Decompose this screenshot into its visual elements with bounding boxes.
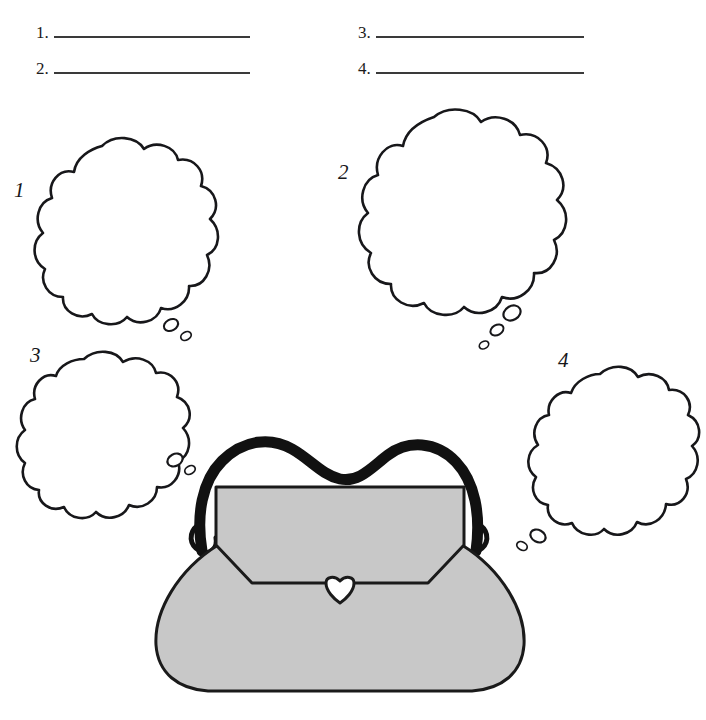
- bubble-1-tail-dot-1: [162, 317, 180, 334]
- answer-input-2[interactable]: [54, 58, 250, 74]
- thought-bubble-1[interactable]: 1: [14, 130, 234, 360]
- answer-number-4: 4.: [358, 60, 376, 77]
- answer-row-2[interactable]: 2.: [36, 58, 250, 77]
- bubble-label-1: 1: [14, 178, 25, 203]
- answer-input-3[interactable]: [376, 22, 584, 38]
- bubble-2-tail-dot-2: [488, 322, 505, 338]
- bubble-1-cloud[interactable]: [14, 130, 234, 360]
- handbag[interactable]: [140, 405, 540, 705]
- answer-row-1[interactable]: 1.: [36, 22, 250, 41]
- handbag-illustration[interactable]: [140, 405, 540, 705]
- bubble-label-3: 3: [30, 343, 41, 368]
- bubble-label-4: 4: [558, 348, 569, 373]
- bubble-2-tail-dot-3: [478, 339, 490, 350]
- bubble-label-2: 2: [338, 160, 349, 185]
- bubble-4-cloud[interactable]: [512, 352, 706, 567]
- thought-bubble-4[interactable]: 4: [512, 352, 706, 567]
- bubble-2-tail-dot-1: [501, 302, 524, 323]
- bubble-1-tail-dot-2: [179, 330, 192, 342]
- answer-input-4[interactable]: [376, 58, 584, 74]
- answer-row-4[interactable]: 4.: [358, 58, 584, 77]
- answer-number-1: 1.: [36, 24, 54, 41]
- answer-input-1[interactable]: [54, 22, 250, 38]
- answer-row-3[interactable]: 3.: [358, 22, 584, 41]
- answer-number-2: 2.: [36, 60, 54, 77]
- worksheet-canvas: 1. 2. 3. 4. 1 2 3: [0, 0, 706, 720]
- answer-number-3: 3.: [358, 24, 376, 41]
- handbag-flap[interactable]: [216, 487, 464, 583]
- thought-bubble-2[interactable]: 2: [330, 105, 590, 360]
- bubble-2-cloud[interactable]: [330, 105, 590, 360]
